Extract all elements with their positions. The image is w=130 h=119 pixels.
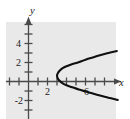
y-tick-label-4: 4 — [16, 38, 21, 49]
y-tick-label-neg2: -2 — [15, 95, 23, 106]
parabola-chart-svg: 4 2 -2 y 2 6 x — [0, 0, 130, 119]
y-axis-arrow-icon — [26, 17, 32, 25]
y-axis-letter: y — [29, 5, 35, 16]
y-tick-label-2: 2 — [16, 57, 21, 68]
graph-figure: 4 2 -2 y 2 6 x — [0, 0, 130, 119]
x-axis-letter: x — [118, 77, 124, 88]
x-tick-label-2: 2 — [45, 86, 50, 97]
